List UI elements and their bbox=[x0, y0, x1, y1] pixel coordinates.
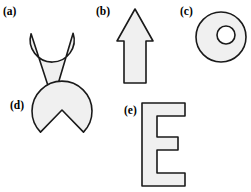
panel-label-c: (c) bbox=[180, 5, 193, 17]
panel-label-e: (e) bbox=[124, 104, 137, 116]
shape-e-block-letter-e bbox=[142, 103, 185, 186]
shape-d-teardrop-point-up bbox=[32, 81, 92, 132]
panel-label-b: (b) bbox=[96, 5, 110, 17]
shape-figure: (a) (b) (c) (d) (e) bbox=[0, 0, 251, 192]
shapes-group bbox=[30, 9, 246, 186]
shape-c-annulus-ring bbox=[196, 12, 246, 62]
shape-b-arrow-up bbox=[117, 9, 153, 83]
shapes-canvas bbox=[0, 0, 251, 192]
panel-label-a: (a) bbox=[3, 5, 16, 17]
panel-label-d: (d) bbox=[10, 99, 24, 111]
